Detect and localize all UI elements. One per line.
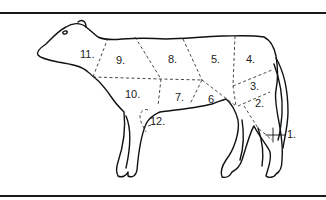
label-10: 10. (125, 88, 140, 100)
eye (63, 31, 67, 34)
label-6: 6. (208, 93, 217, 105)
cow-diagram: 1. 2. 3. 4. 5. 6. 7. 8. 9. 10. 11. 12. (0, 0, 326, 200)
label-4: 4. (246, 53, 255, 65)
cut-9-8 (135, 37, 161, 79)
label-7: 7. (175, 91, 184, 103)
label-9: 9. (116, 54, 125, 66)
cut-neck-10 (93, 77, 202, 80)
front-leg-inner (126, 116, 130, 168)
label-5: 5. (211, 53, 220, 65)
beef-cuts-figure: 1. 2. 3. 4. 5. 6. 7. 8. 9. 10. 11. 12. (0, 0, 326, 200)
cut-5-4 (233, 36, 236, 106)
label-2: 2. (255, 97, 264, 109)
label-11: 11. (80, 48, 94, 60)
label-3: 3. (250, 80, 259, 92)
label-1: 1. (287, 128, 296, 140)
cut-10-7 (158, 79, 161, 106)
cut-8-5 (183, 39, 202, 80)
cow-outline (37, 24, 282, 178)
label-8: 8. (168, 53, 177, 65)
label-12: 12. (150, 115, 165, 127)
cut-11-9 (93, 38, 108, 77)
back-leg-separation (240, 120, 243, 160)
cut-7-6 (190, 80, 202, 104)
cut-3-2 (238, 92, 270, 106)
